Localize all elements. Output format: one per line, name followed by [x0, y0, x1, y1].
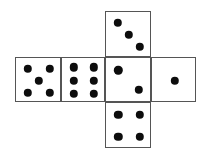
- pip: [89, 76, 97, 84]
- pip: [113, 18, 121, 26]
- pip: [70, 89, 78, 97]
- pip: [46, 88, 54, 96]
- pip: [136, 43, 144, 51]
- die-face-left-outer: [15, 57, 61, 102]
- pip: [135, 111, 143, 119]
- pip: [134, 86, 142, 94]
- pip: [24, 65, 32, 73]
- die-face-center: [105, 57, 151, 102]
- die-face-top: [105, 11, 151, 57]
- pip: [70, 76, 78, 84]
- pip: [70, 63, 78, 71]
- die-face-bottom: [105, 102, 151, 148]
- pip: [89, 89, 97, 97]
- pip: [24, 88, 32, 96]
- pip: [89, 63, 97, 71]
- pip: [135, 133, 143, 141]
- die-face-left-inner: [61, 57, 105, 102]
- pip: [35, 76, 43, 84]
- pip: [114, 133, 122, 141]
- pip: [46, 65, 54, 73]
- pip: [114, 111, 122, 119]
- pip: [114, 66, 122, 74]
- pip: [170, 76, 178, 84]
- die-face-right-outer: [151, 57, 196, 102]
- cube-net-diagram: [0, 0, 207, 158]
- pip: [125, 31, 133, 39]
